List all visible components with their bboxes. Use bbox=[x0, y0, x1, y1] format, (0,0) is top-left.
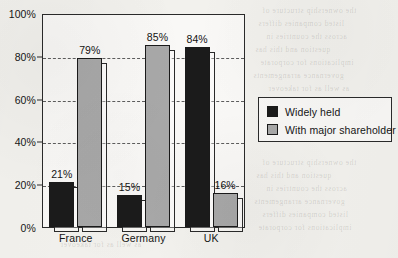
bar-value-label: 79% bbox=[79, 44, 100, 56]
plot-inner: 21%79%15%85%84%16% bbox=[43, 15, 244, 227]
y-tick-label: 40% bbox=[15, 136, 36, 148]
bleed-line: question and this has bbox=[255, 45, 330, 54]
bleed-line: question and this has bbox=[256, 171, 331, 180]
bleed-line: the ownership structure of bbox=[262, 6, 356, 15]
y-tick-label: 80% bbox=[15, 51, 36, 63]
bar-face bbox=[185, 47, 210, 227]
x-axis-labels: FranceGermanyUK bbox=[42, 232, 245, 252]
bleed-line: governance arrangements bbox=[253, 71, 344, 80]
y-tick-label: 20% bbox=[15, 179, 36, 191]
bleed-line: listed companies differs bbox=[262, 210, 348, 219]
bleed-line: across the countries in bbox=[266, 184, 347, 193]
y-tick-label: 60% bbox=[15, 94, 36, 106]
bar-face bbox=[49, 182, 74, 227]
plot-area: 21%79%15%85%84%16% bbox=[42, 14, 245, 228]
y-tick-label: 0% bbox=[21, 222, 36, 234]
y-tick-mark bbox=[37, 185, 42, 186]
x-label-france: France bbox=[59, 232, 93, 244]
bar-germany-widely-held: 15% bbox=[117, 195, 142, 227]
x-label-germany: Germany bbox=[121, 232, 165, 244]
bar-face bbox=[77, 58, 102, 227]
chart-figure: the ownership structure of listed compan… bbox=[0, 0, 398, 258]
legend-item-major-shareholder: With major shareholder bbox=[267, 121, 391, 138]
bleed-line: governance arrangements bbox=[254, 197, 345, 206]
legend-swatch-major-shareholder bbox=[267, 124, 278, 135]
y-axis: 100%80%60%40%20%0% bbox=[0, 14, 42, 228]
bleed-line: across the countries in bbox=[266, 32, 347, 41]
y-tick-mark bbox=[37, 99, 42, 100]
bar-uk-widely-held: 84% bbox=[185, 47, 210, 227]
bar-france-widely-held: 21% bbox=[49, 182, 74, 227]
bar-germany-with-major-shareholder: 85% bbox=[145, 45, 170, 227]
legend-label-major-shareholder: With major shareholder bbox=[285, 124, 396, 136]
y-tick-mark bbox=[37, 142, 42, 143]
legend-label-widely-held: Widely held bbox=[285, 106, 340, 118]
x-label-uk: UK bbox=[204, 232, 219, 244]
bar-value-label: 85% bbox=[147, 31, 168, 43]
bleed-line: implications for corporate bbox=[258, 223, 352, 232]
y-tick-label: 100% bbox=[9, 8, 36, 20]
bar-uk-with-major-shareholder: 16% bbox=[213, 193, 238, 227]
legend-item-widely-held: Widely held bbox=[267, 103, 391, 120]
bleed-line: implications for corporate bbox=[260, 58, 354, 67]
chart-legend: Widely held With major shareholder bbox=[258, 97, 392, 142]
bleed-line: the ownership structure of bbox=[262, 158, 356, 167]
bar-value-label: 21% bbox=[51, 168, 72, 180]
bar-face bbox=[117, 195, 142, 227]
bar-france-with-major-shareholder: 79% bbox=[77, 58, 102, 227]
bar-value-label: 15% bbox=[119, 181, 140, 193]
bar-face bbox=[145, 45, 170, 227]
bleed-line: as well as for takeover bbox=[268, 84, 349, 93]
y-tick-mark bbox=[37, 56, 42, 57]
bar-value-label: 16% bbox=[214, 179, 235, 191]
legend-swatch-widely-held bbox=[267, 106, 278, 117]
bar-face bbox=[213, 193, 238, 227]
bar-value-label: 84% bbox=[186, 33, 207, 45]
bleed-line: listed companies differs bbox=[258, 19, 344, 28]
